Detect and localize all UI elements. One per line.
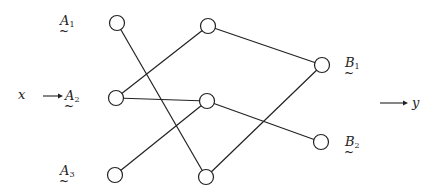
edge-h1-b1 (208, 26, 322, 65)
label-a3: A3~ (59, 163, 74, 188)
output-arrow (380, 101, 408, 106)
edge-a3-h2 (115, 101, 207, 175)
edge-h3-b1 (206, 65, 322, 177)
input-label-x: x (18, 87, 26, 102)
network-diagram: x y A1~A2~A3~B1~B2~ (0, 0, 441, 196)
input-arrow (43, 94, 63, 99)
node-b1 (315, 58, 330, 73)
node-h3 (199, 170, 214, 185)
output-label-y: y (411, 95, 420, 110)
label-a1: A1~ (59, 13, 74, 38)
tilde-mark: ~ (59, 24, 69, 38)
node-a1 (110, 16, 125, 31)
edge-a2-h1 (116, 26, 208, 98)
node-b2 (314, 135, 329, 150)
tilde-mark: ~ (344, 66, 354, 80)
label-a2: A2~ (64, 88, 79, 113)
tilde-mark: ~ (59, 174, 69, 188)
node-h2 (200, 94, 215, 109)
tilde-mark: ~ (64, 99, 74, 113)
label-b1: B1~ (344, 55, 360, 80)
node-h1 (201, 19, 216, 34)
node-a2 (109, 91, 124, 106)
tilde-mark: ~ (344, 145, 354, 159)
label-b2: B2~ (344, 134, 360, 159)
node-a3 (108, 168, 123, 183)
